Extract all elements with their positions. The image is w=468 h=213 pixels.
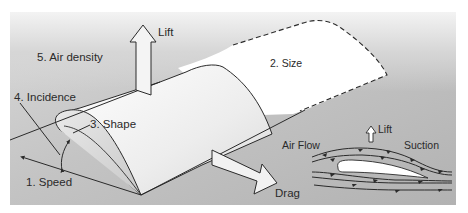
incidence-label: 4. Incidence xyxy=(14,91,76,103)
diagram-canvas: Lift Drag 1. Speed 4. Incidence 3. Shape… xyxy=(0,0,468,213)
air-density-label: 5. Air density xyxy=(37,51,103,63)
air-flow-label: Air Flow xyxy=(282,139,320,151)
drag-label: Drag xyxy=(275,187,300,199)
size-label: 2. Size xyxy=(270,57,302,69)
shape-label: 3. Shape xyxy=(90,118,136,130)
inset-lift-label: Lift xyxy=(378,123,392,135)
suction-label: Suction xyxy=(404,139,439,151)
speed-label: 1. Speed xyxy=(26,176,72,188)
lift-label: Lift xyxy=(158,26,174,38)
